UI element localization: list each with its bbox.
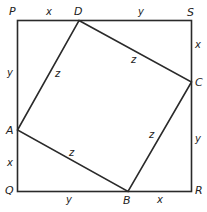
label-segment-dc: z: [130, 54, 137, 65]
label-segment-ad: z: [54, 68, 61, 79]
label-point-a: A: [5, 124, 14, 137]
label-segment-ba: z: [68, 147, 75, 158]
outer-square-pqrs: [18, 21, 192, 192]
inner-square-abcd: [18, 21, 192, 192]
label-point-s: S: [187, 6, 194, 19]
label-segment-rb: x: [156, 194, 163, 205]
label-point-b: B: [123, 194, 131, 207]
label-point-q: Q: [5, 184, 14, 197]
label-point-r: R: [195, 184, 203, 197]
label-segment-pd: x: [45, 6, 52, 17]
pythagoras-square-diagram: P D S C A Q B R x y x y x y x y z z z z: [0, 0, 207, 212]
label-segment-cb: z: [148, 129, 155, 140]
label-segment-ap: y: [6, 67, 14, 78]
label-segment-cr: y: [194, 133, 202, 144]
label-point-d: D: [74, 5, 82, 18]
label-segment-sc: x: [194, 39, 201, 50]
label-segment-ds: y: [137, 6, 145, 17]
label-segment-qa: x: [6, 157, 13, 168]
label-point-c: C: [195, 76, 203, 89]
label-segment-bq: y: [65, 194, 73, 205]
label-point-p: P: [9, 5, 16, 18]
